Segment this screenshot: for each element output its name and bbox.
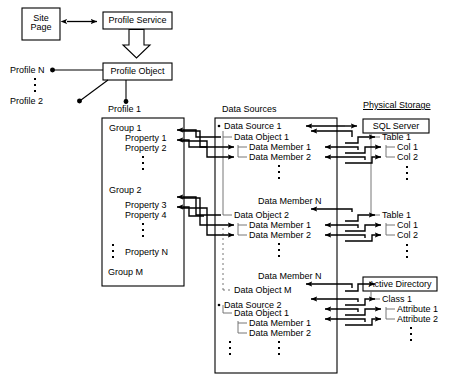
group-1-ellipsis [142, 156, 145, 174]
link-dsmember2b-to-col2b [345, 235, 381, 241]
active-directory-label: Active Directory [368, 279, 431, 289]
profile-ellipsis [34, 78, 37, 96]
link-dataobject2-to-table1b [345, 215, 375, 221]
ds2-o1-ellipsis [278, 341, 281, 359]
diagram-vector-layer [0, 0, 455, 390]
t1b-col-1-label[interactable]: Col 1 [397, 221, 418, 230]
attribute-1-label[interactable]: Attribute 1 [397, 305, 438, 314]
ds1-o2-data-member-n-label: Data Member N [258, 272, 322, 281]
ds2-data-object-1-label[interactable]: Data Object 1 [234, 309, 289, 318]
class-1-ellipsis [410, 327, 413, 345]
t1a-col-1-label[interactable]: Col 1 [397, 143, 418, 152]
line-profileobject-profile2 [81, 80, 108, 100]
bullet-data-source-1 [218, 125, 221, 128]
group-1-label: Group 1 [109, 124, 142, 133]
physical-storage-header: Physical Storage [363, 100, 431, 110]
table-1-a-label[interactable]: Table 1 [382, 133, 411, 142]
property-1-label[interactable]: Property 1 [125, 134, 167, 143]
property-2-label[interactable]: Property 2 [125, 144, 167, 153]
data-source-1-label[interactable]: Data Source 1 [224, 122, 282, 131]
property-n-label: Property N [125, 248, 168, 257]
link-dsmember2-to-col2 [345, 157, 381, 163]
dot-profile-n [51, 68, 55, 72]
ds1-data-object-2-label[interactable]: Data Object 2 [234, 211, 289, 220]
t1b-col-2-label[interactable]: Col 2 [397, 231, 418, 240]
profile-service-label: Profile Service [108, 15, 166, 25]
profile-n-label: Profile N [10, 66, 45, 75]
link-ds2member1-to-attribute1 [345, 309, 381, 315]
dot-profile-1 [124, 100, 128, 104]
site-page-label-line2: Page [30, 22, 51, 32]
profile-object-box[interactable]: Profile Object [103, 67, 172, 76]
t1b-ellipsis [406, 244, 409, 262]
link-dsmember1b-to-col1b [345, 225, 381, 231]
attribute-2-label[interactable]: Attribute 2 [397, 315, 438, 324]
property-3-label[interactable]: Property 3 [125, 201, 167, 210]
ds2-o1-data-member-1-label[interactable]: Data Member 1 [249, 319, 311, 328]
profile-1-header: Profile 1 [108, 104, 141, 114]
active-directory-box[interactable]: Active Directory [363, 280, 437, 289]
ds1-o2-data-member-1-label[interactable]: Data Member 1 [249, 221, 311, 230]
group-m-label: Group M [108, 268, 143, 277]
profile-object-label: Profile Object [110, 66, 164, 76]
link-dsmember1-to-col1 [345, 147, 381, 153]
ds2-o1-data-member-2-label[interactable]: Data Member 2 [249, 329, 311, 338]
group-2-label: Group 2 [109, 186, 142, 195]
link-ds2member2-to-attribute2 [345, 319, 381, 325]
block-arrow-service-to-object [123, 30, 150, 59]
ds1-o1-data-member-n-label: Data Member N [258, 197, 322, 206]
ds1-o1-data-member-1-label[interactable]: Data Member 1 [249, 143, 311, 152]
class-1-label[interactable]: Class 1 [382, 295, 412, 304]
data-sources-header: Data Sources [222, 104, 277, 114]
sql-server-label: SQL Server [373, 121, 420, 131]
t1a-col-2-label[interactable]: Col 2 [397, 153, 418, 162]
ds1-data-object-m-label: Data Object M [234, 286, 292, 295]
ds1-data-object-1-label[interactable]: Data Object 1 [234, 133, 289, 142]
ds2-left-ellipsis [229, 341, 232, 359]
group-2-ellipsis [142, 223, 145, 241]
ds1-o1-data-member-2-label[interactable]: Data Member 2 [249, 153, 311, 162]
link-ds2object1-to-class1 [345, 299, 375, 305]
ds1-o2-data-member-2-label[interactable]: Data Member 2 [249, 231, 311, 240]
t1a-ellipsis [406, 166, 409, 184]
table-1-b-label[interactable]: Table 1 [382, 211, 411, 220]
profile-2-label: Profile 2 [10, 97, 43, 106]
property-4-label[interactable]: Property 4 [125, 211, 167, 220]
ds1-o1-ellipsis [278, 165, 281, 183]
site-page-box[interactable]: Site Page [22, 14, 60, 33]
bullet-data-source-2 [218, 304, 221, 307]
dot-profile-2 [78, 99, 82, 103]
sql-server-box[interactable]: SQL Server [363, 122, 429, 131]
diagram-canvas: Site Page Profile Service Profile Object… [0, 0, 455, 390]
group-m-ellipsis [112, 244, 115, 262]
profile-service-box[interactable]: Profile Service [103, 16, 172, 25]
ds1-o2-ellipsis [278, 243, 281, 261]
link-dataobject1-to-table1 [345, 137, 375, 143]
